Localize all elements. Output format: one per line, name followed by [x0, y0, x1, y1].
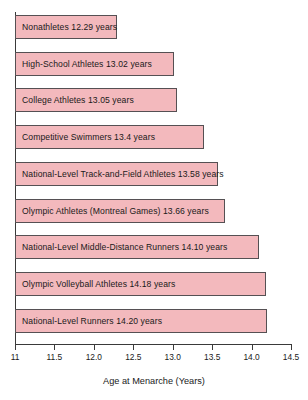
x-tick-label: 13.0 [165, 352, 181, 362]
x-tick-mark [291, 345, 292, 350]
x-tick-mark [212, 345, 213, 350]
x-tick-mark [173, 345, 174, 350]
bar-label: College Athletes 13.05 years [22, 95, 134, 105]
x-axis-line [15, 344, 292, 345]
bar-label: Olympic Athletes (Montreal Games) 13.66 … [22, 206, 209, 216]
bar-chart: Nonathletes 12.29 yearsHigh-School Athle… [0, 0, 308, 400]
bar-label: National-Level Track-and-Field Athletes … [22, 169, 224, 179]
x-tick-mark [94, 345, 95, 350]
x-tick-label: 12.5 [125, 352, 141, 362]
x-axis-title: Age at Menarche (Years) [0, 376, 308, 387]
x-tick-label: 11 [11, 352, 20, 362]
bar-label: Nonathletes 12.29 years [22, 22, 117, 32]
plot-area: Nonathletes 12.29 yearsHigh-School Athle… [0, 0, 308, 345]
bar-label: Competitive Swimmers 13.4 years [22, 132, 155, 142]
x-tick-mark [252, 345, 253, 350]
x-tick-mark [133, 345, 134, 350]
bar-label: Olympic Volleyball Athletes 14.18 years [22, 279, 175, 289]
bar-label: National-Level Runners 14.20 years [22, 316, 162, 326]
x-tick-mark [54, 345, 55, 350]
x-tick-label: 14.0 [243, 352, 259, 362]
x-tick-label: 11.5 [47, 352, 63, 362]
x-tick-label: 13.5 [204, 352, 220, 362]
bar-label: High-School Athletes 13.02 years [22, 59, 152, 69]
bar-label: National-Level Middle-Distance Runners 1… [22, 242, 227, 252]
x-tick-label: 12.0 [86, 352, 102, 362]
x-tick-label: 14.5 [283, 352, 299, 362]
x-tick-mark [15, 345, 16, 350]
